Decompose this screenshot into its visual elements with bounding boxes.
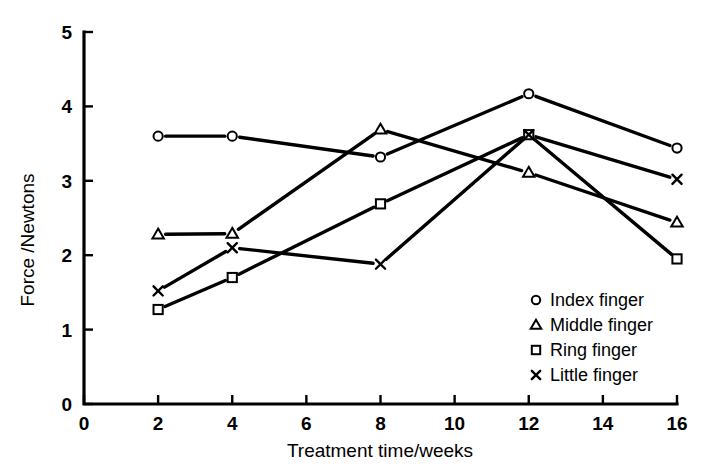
series-segment — [386, 140, 523, 260]
y-tick-label: 2 — [61, 245, 72, 266]
marker-triangle-point — [227, 228, 239, 238]
marker-circle-legend — [532, 296, 540, 304]
legend-label: Middle finger — [550, 315, 653, 335]
marker-square-point — [376, 199, 385, 208]
marker-square-legend — [532, 346, 540, 354]
marker-square-point — [228, 273, 237, 282]
marker-circle-point — [228, 132, 237, 141]
series-segment — [240, 137, 373, 156]
x-tick-label: 12 — [518, 413, 539, 434]
chart-legend: Index fingerMiddle fingerRing fingerLitt… — [531, 290, 653, 385]
x-tick-label: 16 — [666, 413, 687, 434]
x-tick-label: 2 — [153, 413, 164, 434]
series-segment — [165, 280, 225, 306]
y-axis-label: Force /Newtons — [17, 173, 38, 306]
y-tick-label: 4 — [61, 96, 72, 117]
legend-label: Ring finger — [550, 340, 637, 360]
series-segment — [165, 252, 226, 288]
legend-item: Ring finger — [532, 340, 637, 360]
marker-triangle-legend — [531, 320, 542, 329]
line-chart: 0246810121416 012345 Index fingerMiddle … — [0, 0, 720, 473]
marker-x-point — [376, 260, 385, 269]
marker-triangle-point — [375, 124, 387, 134]
series-segment — [240, 249, 373, 264]
chart-figure: 0246810121416 012345 Index fingerMiddle … — [0, 0, 720, 473]
y-tick-labels: 012345 — [61, 22, 72, 415]
y-tick-label: 0 — [61, 394, 72, 415]
series-index-finger — [154, 89, 682, 161]
legend-item: Little finger — [532, 365, 638, 385]
y-tick-label: 5 — [61, 22, 72, 43]
x-tick-label: 6 — [301, 413, 312, 434]
x-tick-label: 4 — [227, 413, 238, 434]
marker-x-legend — [532, 371, 540, 379]
series-segment — [239, 207, 374, 274]
marker-triangle-point — [671, 217, 683, 227]
marker-x-point — [672, 175, 681, 184]
x-tick-labels: 0246810121416 — [79, 413, 688, 434]
y-tick-label: 3 — [61, 171, 72, 192]
marker-square-point — [672, 254, 681, 263]
x-tick-label: 14 — [592, 413, 614, 434]
series-little-finger — [154, 130, 682, 295]
marker-circle-point — [672, 143, 681, 152]
marker-circle-point — [154, 132, 163, 141]
legend-item: Middle finger — [531, 315, 653, 335]
data-series — [152, 89, 682, 314]
marker-triangle-point — [523, 167, 535, 177]
marker-x-point — [228, 243, 237, 252]
series-segment — [388, 132, 522, 171]
series-segment — [536, 96, 670, 145]
marker-x-point — [154, 286, 163, 295]
marker-triangle-point — [152, 229, 164, 239]
marker-circle-point — [524, 89, 533, 98]
legend-label: Little finger — [550, 365, 638, 385]
legend-label: Index finger — [550, 290, 644, 310]
marker-circle-point — [376, 152, 385, 161]
x-tick-label: 0 — [79, 413, 90, 434]
legend-item: Index finger — [532, 290, 644, 310]
x-tick-label: 10 — [444, 413, 465, 434]
marker-square-point — [154, 305, 163, 314]
y-tick-label: 1 — [61, 320, 72, 341]
x-tick-label: 8 — [375, 413, 386, 434]
x-axis-label: Treatment time/weeks — [287, 440, 473, 461]
series-segment — [166, 234, 225, 235]
